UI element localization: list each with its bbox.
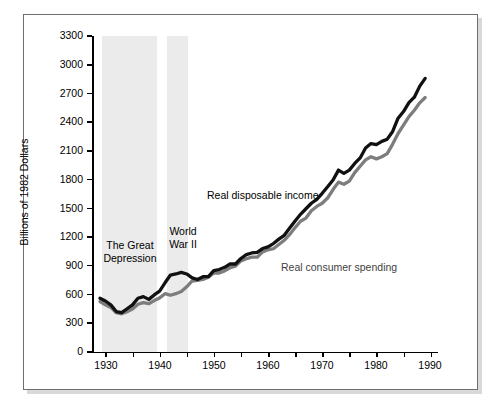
annotation-real-disposable-income: Real disposable income: [207, 189, 359, 202]
annotation-real-consumer-spending: Real consumer spending: [281, 261, 421, 274]
annotation-line-1: The Great: [96, 239, 164, 252]
series-container: [0, 0, 500, 418]
chart-plot-area: 0 300 600 900 1200 1500 1800 2100 2400 2…: [0, 0, 500, 418]
annotation-world-war-2: World War II: [160, 225, 206, 250]
annotation-line-1: World: [160, 225, 206, 238]
line-real-consumer-spending: [100, 98, 425, 314]
annotation-great-depression: The Great Depression: [96, 239, 164, 264]
annotation-line-2: War II: [160, 238, 206, 251]
annotation-line-2: Depression: [96, 252, 164, 265]
